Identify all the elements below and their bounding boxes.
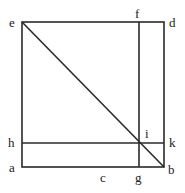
geometry-diagram: e f d h i k a c g b [0,0,185,193]
label-f: f [135,6,140,21]
label-h: h [8,135,15,150]
label-b: b [168,162,175,177]
label-c: c [100,170,106,185]
label-g: g [135,170,142,185]
label-e: e [9,15,15,30]
label-i: i [145,126,149,141]
diagonal-eb [22,22,164,167]
label-d: d [169,15,176,30]
label-a: a [9,160,15,175]
label-k: k [169,135,176,150]
